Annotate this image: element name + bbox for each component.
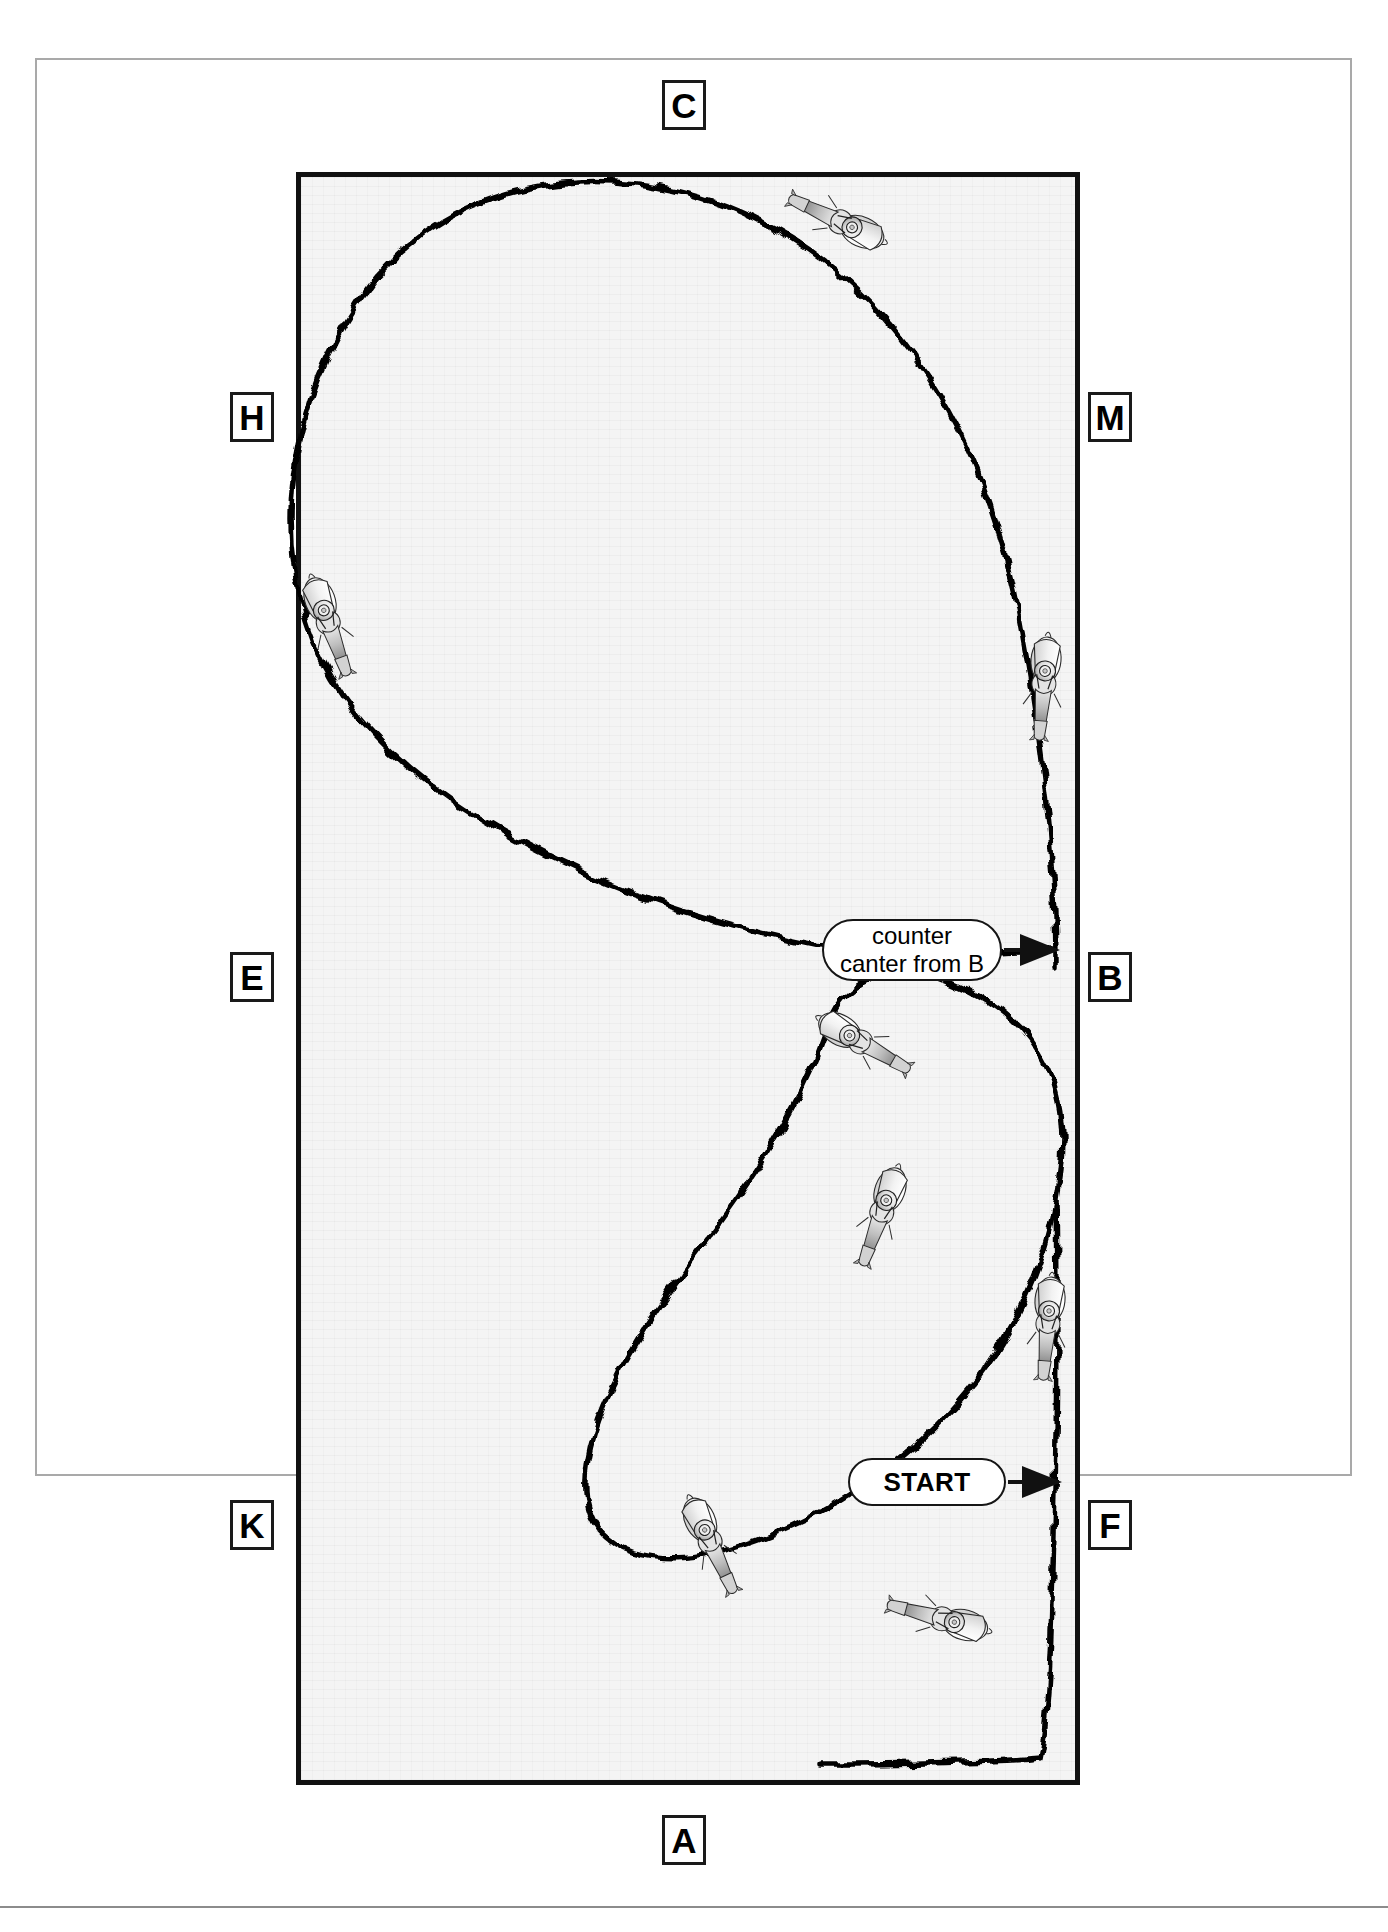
callout-counter-canter: counter canter from B <box>822 919 1002 981</box>
arena-marker-f: F <box>1088 1500 1132 1550</box>
arena-marker-a: A <box>662 1815 706 1865</box>
page-bottom-rule <box>0 1906 1388 1908</box>
arena-marker-b: B <box>1088 952 1132 1002</box>
arena-marker-k: K <box>230 1500 274 1550</box>
arena-marker-m: M <box>1088 392 1132 442</box>
arena-marker-h: H <box>230 392 274 442</box>
arena-marker-c: C <box>662 80 706 130</box>
callout-start: START <box>848 1458 1006 1506</box>
arena-marker-e: E <box>230 952 274 1002</box>
